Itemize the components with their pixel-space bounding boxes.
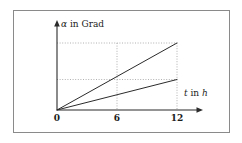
y-axis-arrow-icon [54, 20, 60, 27]
x-tick-label-6: 6 [114, 114, 120, 123]
figure-container: 0 6 12 α in Grad t in h [0, 0, 242, 143]
y-axis-label-text: in Grad [67, 19, 104, 29]
x-tick-label-12: 12 [171, 114, 184, 123]
x-axis-arrow-icon [197, 107, 204, 113]
plot-area [0, 0, 242, 143]
data-line-steep [57, 43, 177, 110]
x-axis-label-unit: h [202, 88, 208, 98]
y-axis-label: α in Grad [61, 20, 104, 29]
x-tick-label-0: 0 [54, 114, 60, 123]
x-axis-label-middle: in [188, 88, 202, 98]
x-axis-label: t in h [184, 89, 208, 98]
